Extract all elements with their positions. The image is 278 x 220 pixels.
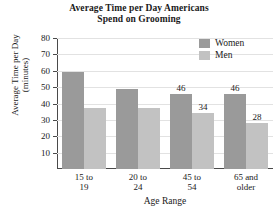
bar-men-0[interactable] [84, 108, 106, 169]
y-tick-label: 70 [41, 49, 50, 59]
y-tick-label: 40 [41, 99, 50, 109]
x-tick-label-line: 54 [183, 182, 201, 192]
y-tick-label: 80 [41, 33, 50, 43]
y-tick-label: 30 [41, 115, 50, 125]
x-tick-label-line: 24 [129, 182, 147, 192]
bar-women-0[interactable] [62, 72, 84, 169]
bar-value-label: 34 [199, 102, 208, 112]
legend-item-women: Women [199, 38, 244, 48]
x-tick-label-line: 15 to [75, 172, 93, 182]
y-axis-title-line-1: Average Time per Day [10, 34, 21, 116]
x-tick-label: 45 to54 [183, 172, 201, 192]
bar-women-3[interactable]: 46 [224, 94, 246, 169]
y-tick-label: 60 [41, 66, 50, 76]
chart-title-line-2: Spend on Grooming [0, 14, 278, 25]
x-tick-label: 15 to19 [75, 172, 93, 192]
legend-item-men: Men [199, 50, 244, 60]
legend-swatch-men-icon [199, 51, 210, 60]
legend-swatch-women-icon [199, 39, 210, 48]
legend-label-women: Women [215, 38, 244, 48]
bar-men-2[interactable]: 34 [192, 113, 214, 169]
bar-group: 15 to19 [57, 38, 111, 169]
bar-women-1[interactable] [116, 89, 138, 169]
chart-legend: Women Men [199, 38, 244, 60]
bar-men-3[interactable]: 28 [246, 123, 268, 169]
y-axis-title-line-2: (minutes) [20, 34, 31, 116]
bar-men-1[interactable] [138, 108, 160, 169]
y-axis-title: Average Time per Day (minutes) [0, 10, 40, 140]
chart-title: Average Time per Day Americans Spend on … [0, 3, 278, 25]
x-tick-label-line: 19 [75, 182, 93, 192]
x-tick-label: 65 andolder [234, 172, 258, 192]
x-tick-label-line: 65 and [234, 172, 258, 182]
y-tick-label: 20 [41, 131, 50, 141]
bar-value-label: 46 [177, 83, 186, 93]
x-tick-label-line: 20 to [129, 172, 147, 182]
x-tick-label-line: 45 to [183, 172, 201, 182]
y-tick-label: 10 [41, 148, 50, 158]
x-tick-label-line: older [234, 182, 258, 192]
chart-title-line-1: Average Time per Day Americans [0, 3, 278, 14]
bar-women-2[interactable]: 46 [170, 94, 192, 169]
bar-group: 20 to24 [111, 38, 165, 169]
x-tick-label: 20 to24 [129, 172, 147, 192]
x-axis-title: Age Range [57, 196, 273, 206]
y-tick-label: 50 [41, 82, 50, 92]
legend-label-men: Men [215, 50, 232, 60]
bar-value-label: 28 [253, 112, 262, 122]
bar-value-label: 46 [231, 83, 240, 93]
chart-figure: Average Time per Day Americans Spend on … [0, 0, 278, 220]
